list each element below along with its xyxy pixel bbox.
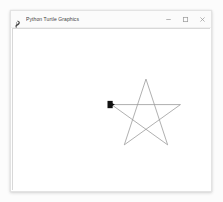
turtle-drawing-canvas[interactable]	[13, 29, 210, 190]
minimize-icon	[164, 15, 173, 24]
turtle-graphics-window: Python Turtle Graphics	[10, 10, 212, 192]
maximize-button[interactable]	[177, 11, 194, 27]
minimize-button[interactable]	[160, 11, 177, 27]
canvas-container	[12, 28, 210, 190]
window-title: Python Turtle Graphics	[26, 16, 160, 23]
desktop-background: Python Turtle Graphics	[0, 0, 223, 202]
close-button[interactable]	[194, 11, 211, 27]
maximize-icon	[181, 15, 190, 24]
python-feather-icon	[14, 15, 23, 24]
window-titlebar[interactable]: Python Turtle Graphics	[11, 11, 211, 28]
star-polygon	[112, 79, 181, 145]
turtle-body-icon	[108, 101, 113, 108]
close-icon	[198, 15, 207, 24]
